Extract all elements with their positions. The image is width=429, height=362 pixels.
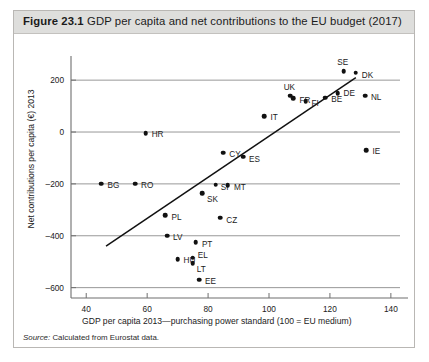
data-point-lt bbox=[191, 261, 196, 266]
data-point-cy bbox=[221, 150, 226, 155]
point-label-ee: EE bbox=[205, 276, 216, 285]
point-label-ro: RO bbox=[141, 180, 153, 189]
data-point-se bbox=[341, 69, 346, 74]
data-point-it bbox=[262, 114, 267, 119]
data-point-be bbox=[323, 95, 328, 100]
point-label-el: EL bbox=[198, 250, 208, 259]
point-label-lv: LV bbox=[173, 232, 182, 241]
plot-region: SEDKDENLBEUKFRFIITIEHRCYESBGROSIMTSKPLCZ… bbox=[14, 34, 414, 349]
point-label-be: BE bbox=[331, 94, 342, 103]
point-label-de: DE bbox=[344, 89, 355, 98]
chart-canvas bbox=[14, 34, 416, 349]
point-label-ie: IE bbox=[372, 147, 380, 156]
data-point-pl bbox=[163, 213, 168, 218]
point-label-se: SE bbox=[337, 58, 348, 67]
figure-header: Figure 23.1 GDP per capita and net contr… bbox=[14, 11, 414, 34]
point-label-uk: UK bbox=[284, 82, 295, 91]
data-point-ee bbox=[197, 278, 202, 283]
point-label-pt: PT bbox=[202, 240, 212, 249]
figure-title: Figure 23.1 GDP per capita and net contr… bbox=[23, 15, 402, 27]
data-point-sk bbox=[200, 191, 205, 196]
x-tick-label: 140 bbox=[384, 304, 398, 314]
point-label-cy: CY bbox=[229, 149, 240, 158]
point-label-cz: CZ bbox=[226, 215, 237, 224]
data-point-ro bbox=[133, 182, 138, 187]
data-point-ie bbox=[364, 148, 369, 153]
data-point-lv bbox=[165, 233, 170, 238]
data-point-nl bbox=[363, 93, 368, 98]
source-label: Source: bbox=[23, 333, 50, 342]
point-label-nl: NL bbox=[371, 92, 381, 101]
figure-container: Figure 23.1 GDP per capita and net contr… bbox=[13, 10, 415, 348]
axis-lines bbox=[71, 56, 408, 298]
x-tick-label: 120 bbox=[323, 304, 337, 314]
figure-number: Figure 23.1 bbox=[23, 15, 84, 27]
data-point-fr bbox=[291, 96, 296, 101]
data-point-el bbox=[191, 256, 196, 261]
data-point-mt bbox=[226, 183, 231, 188]
y-tick-label: –600 bbox=[28, 283, 64, 293]
data-point-cz bbox=[218, 215, 223, 220]
source-text: Calculated from Eurostat data. bbox=[50, 333, 159, 342]
point-label-it: IT bbox=[270, 113, 277, 122]
figure-title-text: GDP per capita and net contributions to … bbox=[87, 15, 402, 27]
x-tick-label: 80 bbox=[203, 304, 212, 314]
data-point-si bbox=[213, 182, 218, 187]
data-point-pt bbox=[194, 240, 199, 245]
x-tick-label: 100 bbox=[262, 304, 276, 314]
data-point-es bbox=[241, 154, 246, 159]
data-point-bg bbox=[99, 182, 104, 187]
point-label-sk: SK bbox=[207, 194, 218, 203]
data-point-fi bbox=[303, 99, 308, 104]
point-label-hr: HR bbox=[152, 130, 164, 139]
data-point-hu bbox=[175, 257, 180, 262]
point-label-fi: FI bbox=[312, 99, 319, 108]
point-label-es: ES bbox=[249, 154, 260, 163]
point-label-bg: BG bbox=[107, 180, 119, 189]
data-point-hr bbox=[143, 131, 148, 136]
y-axis-title: Net contributions per capita (€) 2013 bbox=[26, 69, 36, 249]
x-tick-label: 60 bbox=[143, 304, 152, 314]
point-label-lt: LT bbox=[197, 264, 206, 273]
source-note: Source: Calculated from Eurostat data. bbox=[23, 333, 159, 342]
point-label-dk: DK bbox=[362, 70, 373, 79]
data-point-dk bbox=[354, 71, 359, 76]
point-label-pl: PL bbox=[171, 213, 181, 222]
point-label-mt: MT bbox=[234, 183, 246, 192]
x-axis-title: GDP per capita 2013—purchasing power sta… bbox=[82, 316, 352, 326]
x-tick-label: 40 bbox=[82, 304, 91, 314]
